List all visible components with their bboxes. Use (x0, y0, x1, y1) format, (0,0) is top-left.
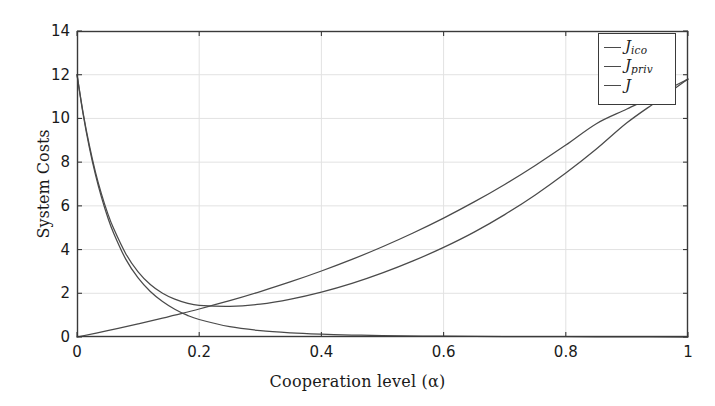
chart-figure: 02468101214 00.20.40.60.81 Cooperation l… (0, 0, 715, 406)
x-tick-label: 0 (72, 343, 82, 361)
x-axis-title: Cooperation level (α) (0, 372, 715, 391)
gridlines (77, 31, 688, 337)
y-tick-label: 4 (60, 241, 70, 259)
legend-label: Jico (625, 39, 647, 55)
axes-frame (78, 32, 688, 337)
tick-marks (77, 31, 688, 337)
legend-line-swatch (604, 66, 621, 67)
y-tick-label: 6 (60, 197, 70, 215)
legend-label-subscript: priv (631, 63, 653, 75)
series-line-j (77, 75, 688, 307)
y-tick-label: 0 (60, 328, 70, 346)
x-tick-label: 0.6 (432, 343, 456, 361)
y-tick-label: 8 (60, 153, 70, 171)
y-tick-label: 12 (51, 66, 70, 84)
legend-line-swatch (604, 47, 621, 48)
x-tick-label: 1 (683, 343, 693, 361)
x-tick-label: 0.2 (187, 343, 211, 361)
legend-label: Jpriv (625, 58, 653, 74)
y-axis-title: System Costs (34, 31, 53, 337)
legend-entry-j-ico: Jico (604, 38, 667, 57)
y-tick-label: 10 (51, 109, 70, 127)
x-tick-label: 0.8 (554, 343, 578, 361)
chart-legend: JicoJprivJ (598, 33, 676, 105)
y-tick-label: 2 (60, 284, 70, 302)
legend-line-swatch (604, 85, 621, 86)
series-line-j-priv (77, 79, 688, 337)
legend-label: J (625, 78, 631, 93)
legend-label-subscript: ico (631, 44, 647, 56)
x-tick-label: 0.4 (309, 343, 333, 361)
legend-entry-j: J (604, 76, 667, 95)
y-tick-label: 14 (51, 22, 70, 40)
legend-entry-j-priv: Jpriv (604, 57, 667, 76)
